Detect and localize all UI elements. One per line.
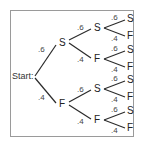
node-f: F: [127, 123, 133, 133]
prob-label: .4: [111, 127, 118, 135]
prob-label: .6: [111, 45, 118, 53]
prob-label: .4: [77, 118, 84, 126]
node-s: S: [127, 45, 134, 55]
prob-label: .6: [111, 14, 118, 22]
prob-label: .4: [77, 56, 84, 64]
node-s: S: [94, 84, 101, 94]
prob-label: .4: [38, 94, 45, 102]
node-f: F: [94, 115, 100, 125]
node-s: S: [127, 14, 134, 24]
prob-label: .4: [111, 35, 118, 43]
start-label: Start:: [12, 72, 34, 81]
node-f: F: [59, 99, 65, 109]
node-f: F: [127, 31, 133, 41]
node-f: F: [94, 54, 100, 64]
node-s: S: [59, 38, 66, 48]
node-f: F: [127, 92, 133, 102]
prob-label: .6: [111, 75, 118, 83]
node-s: S: [127, 75, 134, 85]
prob-label: .6: [111, 106, 118, 114]
node-f: F: [127, 62, 133, 72]
node-s: S: [127, 106, 134, 116]
node-s: S: [94, 23, 101, 33]
prob-label: .6: [77, 24, 84, 32]
prob-label: .6: [77, 86, 84, 94]
prob-label: .4: [111, 66, 118, 74]
prob-label: .4: [111, 96, 118, 104]
prob-label: .6: [38, 46, 45, 54]
